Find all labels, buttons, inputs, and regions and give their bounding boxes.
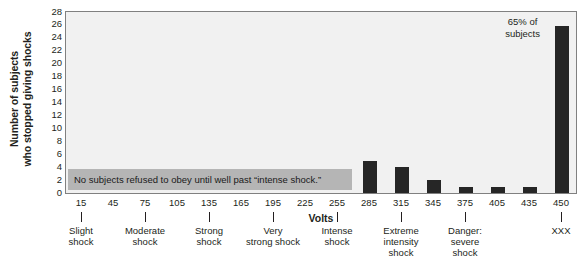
percent-callout: 65% of subjects [505,16,540,39]
bar-285 [363,161,377,193]
milgram-shock-bar-chart: Number of subjects who stopped giving sh… [0,0,583,272]
no-subjects-annotation: No subjects refused to obey until well p… [68,169,352,190]
bar-405 [491,187,505,193]
x-axis-tick-label-15: 15 [76,198,87,208]
bar-345 [427,180,441,193]
category-label-375-line-2: severe [422,236,508,247]
category-label-450-line-1: XXX [518,225,583,236]
y-axis-tick-6: 6 [40,149,62,159]
bar-450 [555,26,569,193]
category-tick-195 [273,212,274,222]
category-tick-135 [209,212,210,222]
x-axis-tick-label-135: 135 [201,198,217,208]
y-axis-tick-26: 26 [40,19,62,29]
category-tick-315 [401,212,402,222]
x-axis-tick-label-255: 255 [329,198,345,208]
x-axis-tick-label-435: 435 [521,198,537,208]
x-axis-tick-label-75: 75 [140,198,151,208]
bars-container [66,12,576,193]
category-tick-75 [145,212,146,222]
y-axis-title: Number of subjects who stopped giving sh… [0,0,40,198]
category-tick-450 [561,212,562,222]
x-axis-tick-label-405: 405 [489,198,505,208]
category-tick-15 [81,212,82,222]
y-axis-tick-22: 22 [40,45,62,55]
y-axis-tick-10: 10 [40,123,62,133]
y-axis-tick-14: 14 [40,97,62,107]
category-label-450: XXX [518,225,583,236]
bar-315 [395,167,409,193]
y-axis-tick-18: 18 [40,71,62,81]
y-axis-tick-4: 4 [40,162,62,172]
y-axis-tick-8: 8 [40,136,62,146]
category-label-375-line-3: shock [422,247,508,258]
x-axis-tick-label-375: 375 [457,198,473,208]
x-axis-tick-label-165: 165 [233,198,249,208]
category-tick-375 [465,212,466,222]
category-tick-255 [337,212,338,222]
x-axis-tick-label-450: 450 [553,198,569,208]
category-label-375: Danger:severeshock [422,225,508,258]
y-axis-tick-12: 12 [40,110,62,120]
x-axis: Volts 1545751051351651952252552853153453… [65,196,577,272]
y-axis-tick-0: 0 [40,188,62,198]
x-axis-tick-label-195: 195 [265,198,281,208]
y-axis-tick-28: 28 [40,7,62,17]
x-axis-tick-label-285: 285 [361,198,377,208]
y-axis-tick-2: 2 [40,175,62,185]
bar-375 [459,187,473,193]
y-axis-tick-20: 20 [40,58,62,68]
percent-callout-line-2: subjects [505,28,540,40]
bar-435 [523,187,537,193]
x-axis-tick-label-225: 225 [297,198,313,208]
percent-callout-line-1: 65% of [505,16,540,28]
x-axis-tick-label-105: 105 [169,198,185,208]
no-subjects-annotation-text: No subjects refused to obey until well p… [74,174,321,185]
y-axis-title-line-1: Number of subjects [8,51,20,147]
plot-area: No subjects refused to obey until well p… [65,11,577,194]
x-axis-tick-label-45: 45 [108,198,119,208]
y-axis-tick-labels: 2826242220181614121086420 [38,0,62,200]
x-axis-title: Volts [309,212,334,224]
y-axis-title-line-2: who stopped giving shocks [21,31,33,166]
y-axis-tick-16: 16 [40,84,62,94]
x-axis-tick-label-345: 345 [425,198,441,208]
x-axis-tick-label-315: 315 [393,198,409,208]
category-label-375-line-1: Danger: [422,225,508,236]
y-axis-tick-24: 24 [40,32,62,42]
